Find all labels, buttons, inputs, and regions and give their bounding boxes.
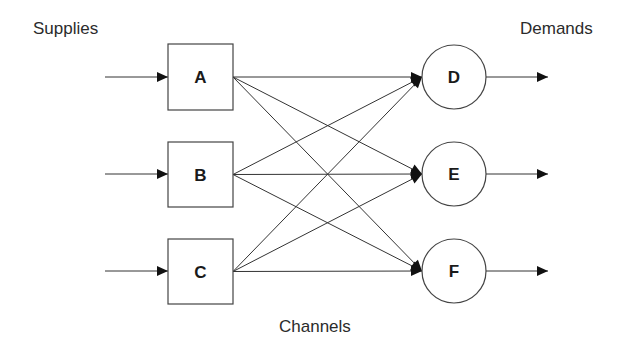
arrowhead-icon (157, 72, 168, 82)
arrowhead-icon (537, 72, 548, 82)
demand-node-label: F (449, 262, 459, 281)
supply-node-label: C (194, 263, 206, 282)
output-arrow-E (486, 169, 548, 179)
channel-A-D (233, 72, 422, 82)
demand-node-E: E (422, 142, 486, 206)
demand-nodes: DEF (422, 45, 486, 303)
supplies-heading: Supplies (33, 20, 98, 37)
demand-node-D: D (422, 45, 486, 109)
supply-node-B: B (168, 142, 233, 207)
demand-node-label: E (448, 165, 459, 184)
demand-node-F: F (422, 239, 486, 303)
channel-edges (233, 72, 422, 276)
output-arrow-F (486, 266, 548, 276)
channel-line (233, 271, 422, 272)
channels-heading: Channels (279, 318, 351, 335)
output-arrow-D (486, 72, 548, 82)
supply-node-C: C (168, 239, 233, 304)
supply-node-label: A (194, 68, 206, 87)
arrowhead-icon (537, 266, 548, 276)
arrowhead-icon (157, 266, 168, 276)
input-arrow-B (105, 169, 168, 179)
transportation-network-diagram: ABC DEF (0, 0, 639, 350)
input-arrow-C (105, 266, 168, 276)
input-arrow-A (105, 72, 168, 82)
demand-output-arrows (486, 72, 548, 276)
supply-input-arrows (105, 72, 168, 276)
arrowhead-icon (537, 169, 548, 179)
supply-node-A: A (168, 44, 233, 110)
channel-C-F (233, 266, 422, 276)
demands-heading: Demands (520, 20, 593, 37)
supply-node-label: B (194, 166, 206, 185)
arrowhead-icon (157, 169, 168, 179)
supply-nodes: ABC (168, 44, 233, 304)
demand-node-label: D (448, 68, 460, 87)
